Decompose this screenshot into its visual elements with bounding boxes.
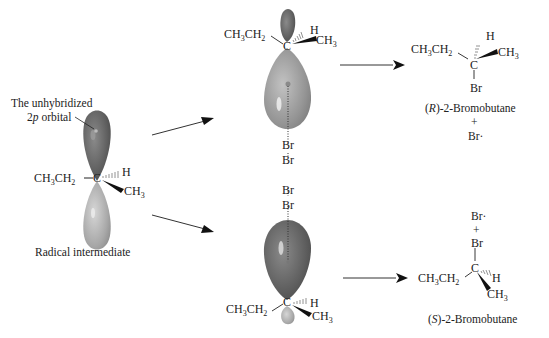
r-hash-group: H xyxy=(486,30,495,42)
bottom-br-far: Br xyxy=(282,184,294,196)
bottom-hash-group: H xyxy=(310,297,319,309)
r-br-radical: Br· xyxy=(468,130,483,142)
s-center-carbon: C xyxy=(471,262,479,274)
s-wedge-group: CH3 xyxy=(487,288,508,300)
radical-hash-group: H xyxy=(122,166,131,178)
r-bottom-br: Br xyxy=(470,82,482,94)
s-br-radical: Br· xyxy=(471,210,486,222)
top-br-near: Br xyxy=(282,139,294,151)
radical-caption: Radical intermediate xyxy=(35,246,130,258)
diagram-graphics xyxy=(0,0,549,338)
radical-center-carbon: C xyxy=(93,172,101,184)
arrow-to-r-product xyxy=(340,60,405,70)
orbital-label-line1: The unhybridized xyxy=(11,97,92,109)
s-top-br: Br xyxy=(471,237,483,249)
s-plus-sign: + xyxy=(473,224,480,236)
top-center-carbon: C xyxy=(283,40,291,52)
bottom-br-near: Br xyxy=(282,199,294,211)
r-plus-sign: + xyxy=(471,116,478,128)
top-wedge-group: CH3 xyxy=(316,34,337,46)
top-left-group: CH3CH2 xyxy=(224,28,265,40)
bottom-wedge-group: CH3 xyxy=(312,310,333,322)
top-br-far: Br xyxy=(282,154,294,166)
bottom-left-group: CH3CH2 xyxy=(226,303,267,315)
r-left-group: CH3CH2 xyxy=(411,43,452,55)
arrow-to-bottom-attack xyxy=(152,215,214,233)
arrow-to-top-attack xyxy=(152,117,214,135)
orbital-label-line2: 2p orbital xyxy=(27,111,71,123)
s-left-group: CH3CH2 xyxy=(418,272,459,284)
r-center-carbon: C xyxy=(470,59,478,71)
bottom-center-carbon: C xyxy=(283,296,291,308)
r-product-name: (R)-2-Bromobutane xyxy=(425,102,516,114)
arrow-to-s-product xyxy=(343,273,408,283)
s-product-name: (S)-2-Bromobutane xyxy=(428,313,517,325)
r-wedge-group: CH3 xyxy=(498,46,519,58)
radical-wedge-group: CH3 xyxy=(124,185,145,197)
radical-left-group: CH3CH2 xyxy=(34,172,75,184)
s-hash-group: H xyxy=(492,272,501,284)
